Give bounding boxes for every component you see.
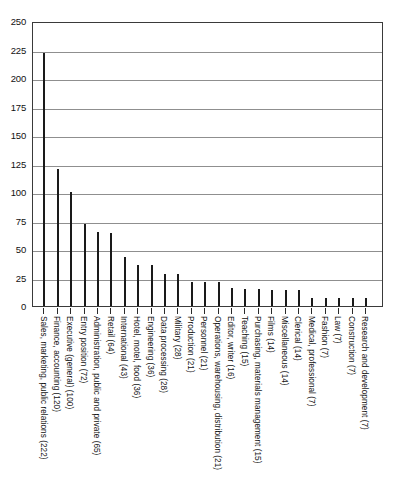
bar xyxy=(244,289,246,306)
x-tick xyxy=(231,308,232,314)
y-axis: 0255075100125150175200225250 xyxy=(0,0,30,330)
x-tick xyxy=(97,308,98,314)
x-tick xyxy=(218,308,219,314)
category-label: Production (21) xyxy=(186,316,194,373)
gridline xyxy=(33,80,382,81)
x-tick xyxy=(164,308,165,314)
x-tick xyxy=(124,308,125,314)
category-label: Research and development (7) xyxy=(360,316,368,430)
category-label: Films (14) xyxy=(266,316,274,353)
bar-chart: 0255075100125150175200225250 Sales, mark… xyxy=(0,0,403,496)
x-tick xyxy=(191,308,192,314)
x-tick xyxy=(298,308,299,314)
y-tick-label: 75 xyxy=(16,217,26,227)
x-tick xyxy=(338,308,339,314)
bar xyxy=(43,53,45,306)
y-tick-label: 250 xyxy=(11,17,26,27)
bar xyxy=(124,257,126,306)
x-tick xyxy=(177,308,178,314)
bar xyxy=(177,274,179,306)
x-tick xyxy=(43,308,44,314)
gridline xyxy=(33,166,382,167)
category-label: Operations, warehousing, distribution (2… xyxy=(213,316,221,470)
bar xyxy=(325,298,327,306)
category-label: Finance, accounting (120) xyxy=(52,316,60,412)
bar xyxy=(57,169,59,306)
y-tick-label: 25 xyxy=(16,274,26,284)
category-label: Editor, writer (16) xyxy=(226,316,234,379)
y-tick-label: 200 xyxy=(11,74,26,84)
x-tick xyxy=(325,308,326,314)
bar xyxy=(258,289,260,306)
x-tick xyxy=(204,308,205,314)
x-tick xyxy=(271,308,272,314)
x-tick xyxy=(151,308,152,314)
category-label: Fashion (7) xyxy=(320,316,328,358)
category-label: Retail (64) xyxy=(105,316,113,354)
y-tick-label: 175 xyxy=(11,103,26,113)
gridline xyxy=(33,109,382,110)
x-tick xyxy=(365,308,366,314)
x-tick xyxy=(137,308,138,314)
bar xyxy=(271,290,273,306)
bar xyxy=(231,288,233,306)
category-label: Law (7) xyxy=(333,316,341,344)
bar xyxy=(285,290,287,306)
x-tick xyxy=(244,308,245,314)
category-label: Hotel, motel, food (36) xyxy=(132,316,140,398)
x-tick xyxy=(70,308,71,314)
category-label: Entry position (72) xyxy=(79,316,87,383)
y-tick-label: 150 xyxy=(11,131,26,141)
category-label: Engineering (36) xyxy=(146,316,154,377)
bar xyxy=(204,282,206,306)
gridline xyxy=(33,52,382,53)
bar xyxy=(70,192,72,306)
y-tick-label: 225 xyxy=(11,46,26,56)
bar xyxy=(338,298,340,306)
x-tick xyxy=(352,308,353,314)
bar xyxy=(311,298,313,306)
category-label: Data processing (28) xyxy=(159,316,167,393)
category-label: Construction (7) xyxy=(347,316,355,375)
bar xyxy=(191,282,193,306)
x-tick xyxy=(285,308,286,314)
category-label: Sales, marketing, public relations (222) xyxy=(38,316,46,460)
category-label: Teaching (15) xyxy=(239,316,247,366)
category-label: Purchasing, materials management (15) xyxy=(253,316,261,463)
x-tick xyxy=(57,308,58,314)
x-tick xyxy=(311,308,312,314)
x-tick xyxy=(84,308,85,314)
gridline xyxy=(33,194,382,195)
bar xyxy=(151,265,153,306)
bar xyxy=(164,274,166,306)
bar xyxy=(84,224,86,306)
category-label: Miscellaneous (14) xyxy=(280,316,288,386)
bar xyxy=(365,298,367,306)
category-label: Administration, public and private (65) xyxy=(92,316,100,455)
bar xyxy=(352,298,354,306)
gridline xyxy=(33,137,382,138)
plot-area xyxy=(32,22,383,307)
bar xyxy=(137,265,139,306)
bar xyxy=(298,290,300,306)
x-tick xyxy=(110,308,111,314)
bar xyxy=(110,233,112,306)
category-label: International (43) xyxy=(119,316,127,379)
category-label: Personnel (21) xyxy=(199,316,207,370)
category-label: Military (28) xyxy=(172,316,180,359)
y-tick-label: 0 xyxy=(21,302,26,312)
y-tick-label: 100 xyxy=(11,188,26,198)
category-label: Executive (general) (100) xyxy=(65,316,73,409)
y-tick-label: 50 xyxy=(16,245,26,255)
category-label: Medical, professional (7) xyxy=(306,316,314,406)
bar xyxy=(97,232,99,306)
y-tick-label: 125 xyxy=(11,160,26,170)
bar xyxy=(218,282,220,306)
x-tick xyxy=(258,308,259,314)
category-label: Clerical (14) xyxy=(293,316,301,361)
